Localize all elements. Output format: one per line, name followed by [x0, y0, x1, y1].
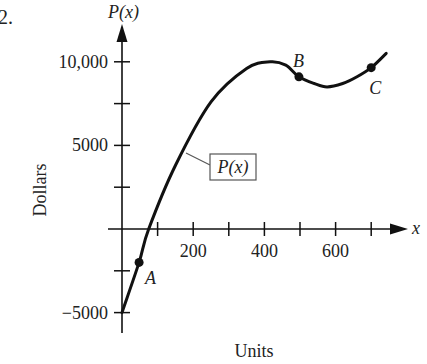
y-tick-label: 5000	[72, 135, 108, 155]
curve-label: P(x)	[217, 157, 249, 178]
point-a-label: A	[144, 268, 157, 288]
x-axis-title: Units	[234, 341, 273, 361]
y-tick-label: 10,000	[59, 52, 109, 72]
profit-curve	[122, 53, 386, 312]
point-a-marker	[135, 258, 144, 267]
point-c-label: C	[369, 78, 382, 98]
y-tick-label: −5000	[62, 303, 108, 323]
x-tick-label: 200	[180, 241, 207, 261]
x-tick-labels: 200400600	[180, 241, 349, 261]
profit-chart: 2. P(x) x 200400600 10,0005000−5000 Doll…	[0, 0, 427, 364]
x-axis-arrow-icon	[390, 224, 408, 235]
x-tick-label: 400	[251, 241, 278, 261]
x-axis-variable: x	[411, 218, 420, 238]
y-tick-labels: 10,0005000−5000	[59, 52, 109, 323]
curve-label-leader	[186, 153, 210, 165]
problem-number: 2.	[0, 6, 13, 28]
y-axis-variable: P(x)	[107, 2, 139, 23]
x-tick-label: 600	[322, 241, 349, 261]
point-c-marker	[367, 63, 376, 72]
point-b-label: B	[293, 51, 304, 71]
y-axis-arrow-icon	[117, 24, 128, 42]
y-axis-title: Dollars	[30, 164, 50, 217]
point-b-marker	[294, 72, 303, 81]
